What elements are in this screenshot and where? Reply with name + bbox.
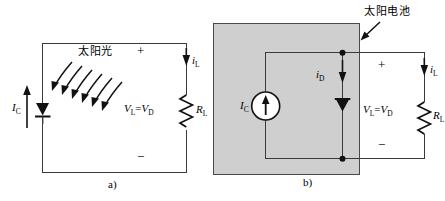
panel-b-symbols — [0, 0, 445, 201]
panel-b-caption: b) — [303, 177, 312, 188]
solar-cell-annotation-label: 太阳电池 — [364, 6, 410, 17]
panel-b-node-top — [340, 50, 346, 56]
panel-b-voltage-v1: V — [363, 103, 370, 115]
figure-canvas: 太阳光 + − VL=VD IC iL RL a) — [0, 0, 445, 201]
panel-b-node-bottom — [340, 156, 346, 162]
panel-b-source-current-label: IC — [240, 100, 249, 114]
panel-b-resistor-symbol — [418, 102, 431, 134]
panel-b-resistor-r: R — [433, 109, 440, 121]
panel-b-resistor-sub: L — [440, 115, 445, 124]
panel-b-load-current-label: iL — [430, 64, 438, 78]
solar-cell-annotation-arrow — [361, 22, 381, 41]
panel-b-voltage-sub-d: D — [387, 109, 392, 118]
panel-b-load-current-arrow — [421, 58, 429, 76]
panel-b-voltage-label: VL=VD — [363, 104, 393, 118]
panel-b-plus-sign: + — [378, 58, 385, 71]
panel-b-diode-current-sub: D — [319, 74, 324, 83]
panel-b-diode-current-label: iD — [316, 69, 324, 83]
panel-b-load-current-sub: L — [433, 69, 438, 78]
panel-b-minus-sign: − — [378, 138, 385, 151]
photocurrent-source-symbol — [252, 92, 280, 120]
shunt-diode-symbol — [335, 99, 351, 112]
panel-b-source-current-sub: C — [244, 105, 249, 114]
panel-b-resistor-label: RL — [433, 110, 444, 124]
panel-b-diode-current-arrow — [339, 60, 347, 83]
